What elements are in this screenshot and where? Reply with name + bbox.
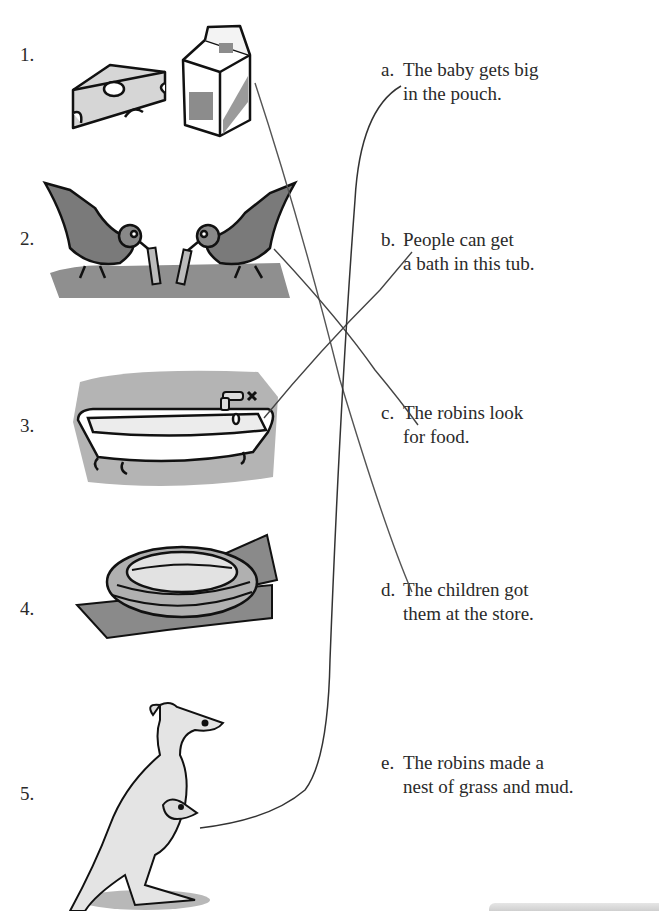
bathtub-image[interactable] [68,362,283,492]
sentence-e[interactable]: e. The robins made a nest of grass and m… [381,751,573,799]
item-number-2: 2. [20,228,34,250]
sentence-letter-b: b. [381,228,395,252]
cheese-and-milk-image[interactable] [65,10,265,140]
milk-carton-icon [183,26,250,136]
robin-left-icon [45,183,152,278]
item-number-1: 1. [20,44,34,66]
item-number-3: 3. [20,415,34,437]
sentence-d-line-2: them at the store. [381,602,534,626]
sentence-b[interactable]: b. People can get a bath in this tub. [381,228,534,276]
sentence-d-line-1: The children got [381,578,534,602]
sentence-e-line-2: nest of grass and mud. [381,775,573,799]
joey-icon [163,799,197,819]
sentence-d[interactable]: d. The children got them at the store. [381,578,534,626]
sentence-a-line-2: in the pouch. [381,82,539,106]
sentence-a[interactable]: a. The baby gets big in the pouch. [381,58,539,106]
item-number-5: 5. [20,783,34,805]
kangaroo-icon [70,703,223,911]
ground-shape [50,263,290,298]
match-line-1-d [255,83,412,592]
page-footer-bar [489,903,659,911]
sentence-c-line-2: for food. [381,425,523,449]
sentence-letter-e: e. [381,751,394,775]
sentence-c[interactable]: c. The robins look for food. [381,401,523,449]
sentence-e-line-1: The robins made a [381,751,573,775]
sentence-b-line-2: a bath in this tub. [381,252,534,276]
nest-icon [107,547,257,617]
sentence-letter-a: a. [381,58,394,82]
sentence-a-line-1: The baby gets big [381,58,539,82]
robins-image[interactable] [40,178,300,298]
sentence-letter-c: c. [381,401,394,425]
sentence-letter-d: d. [381,578,395,602]
sentence-c-line-1: The robins look [381,401,523,425]
item-number-4: 4. [20,598,34,620]
nest-image[interactable] [72,530,282,640]
kangaroo-image[interactable] [65,695,235,911]
cheese-icon [73,65,165,128]
sentence-b-line-1: People can get [381,228,534,252]
